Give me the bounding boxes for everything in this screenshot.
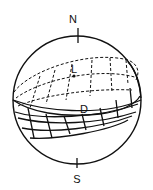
south-label: S [73, 173, 80, 185]
sphere-diagram: N S L D [0, 0, 153, 190]
dark-region-label: D [80, 103, 88, 115]
north-label: N [69, 13, 77, 25]
lit-region-label: L [71, 63, 77, 75]
